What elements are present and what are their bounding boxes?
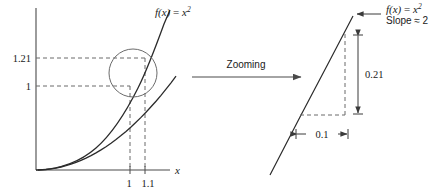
zoom-highlight-circle bbox=[109, 49, 157, 97]
zooming-arrow-label: Zooming bbox=[227, 59, 266, 70]
slope-label: Slope ≈ 2 bbox=[386, 15, 429, 26]
left-curve-label-equals: = bbox=[170, 6, 182, 18]
zooming-connector: Zooming bbox=[192, 59, 301, 77]
y-tick-label-1: 1 bbox=[26, 81, 31, 92]
left-curve-label-exponent: 2 bbox=[187, 5, 191, 14]
x-axis-label: x bbox=[174, 164, 180, 176]
parabola-curve bbox=[36, 76, 176, 170]
right-zoomed-panel: 0.21 0.1 f(x) = x2 Slope ≈ 2 bbox=[270, 2, 429, 175]
y-tick-label-1.21: 1.21 bbox=[13, 53, 31, 64]
left-curve-label: f(x) = x2 bbox=[155, 5, 191, 19]
run-dimension-label: 0.1 bbox=[315, 129, 328, 140]
left-parabola-panel: x 1.21 1 1 1.1 f(x) = x2 bbox=[13, 5, 191, 189]
x-tick-label-1.1: 1.1 bbox=[141, 178, 154, 189]
right-curve-label: f(x) = x2 bbox=[386, 2, 422, 16]
zoomed-secant-line bbox=[270, 16, 353, 175]
right-curve-label-equals: = bbox=[401, 3, 413, 15]
rise-dimension-label: 0.21 bbox=[365, 69, 383, 80]
right-curve-label-exponent: 2 bbox=[418, 2, 422, 11]
x-tick-label-1: 1 bbox=[126, 178, 131, 189]
left-curve-label-fn: f(x) bbox=[155, 6, 171, 19]
zooming-derivative-figure: x 1.21 1 1 1.1 f(x) = x2 bbox=[0, 0, 435, 191]
